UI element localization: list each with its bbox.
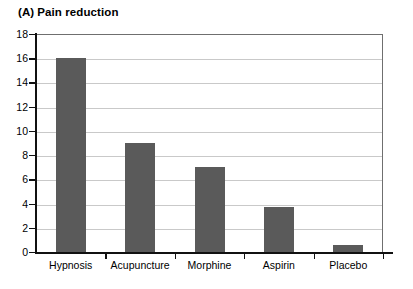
y-axis-tick-label: 10 xyxy=(2,125,28,137)
x-axis-tick-label: Morphine xyxy=(188,259,232,271)
bar-morphine xyxy=(195,167,225,252)
x-axis-tick xyxy=(314,252,315,259)
x-axis-tick-label: Aspirin xyxy=(263,259,295,271)
x-axis-tick-label: Placebo xyxy=(329,259,367,271)
x-axis-tick xyxy=(175,252,176,259)
y-axis-tick-label: 12 xyxy=(2,101,28,113)
x-axis-tick-label: Acupuncture xyxy=(111,259,170,271)
y-axis-tick-label: 8 xyxy=(2,149,28,161)
y-axis-tick xyxy=(29,179,36,180)
pain-reduction-bar-chart: (A)Pain reduction 024681012141618 Hypnos… xyxy=(0,0,413,289)
y-axis-tick xyxy=(29,204,36,205)
y-axis-tick-label: 18 xyxy=(2,28,28,40)
x-axis-line xyxy=(35,252,393,254)
y-axis-tick-label: 0 xyxy=(2,246,28,258)
bars-layer xyxy=(36,34,383,252)
y-axis-tick xyxy=(29,107,36,108)
y-axis-tick-label: 14 xyxy=(2,76,28,88)
y-axis-tick xyxy=(29,228,36,229)
bar-placebo xyxy=(333,245,363,252)
chart-title: (A)Pain reduction xyxy=(18,6,119,18)
y-axis-tick xyxy=(29,131,36,132)
y-axis-tick xyxy=(29,252,36,253)
x-axis-tick xyxy=(383,252,384,259)
chart-title-text: Pain reduction xyxy=(37,6,118,18)
y-axis-tick-label: 16 xyxy=(2,52,28,64)
x-axis-tick-label: Hypnosis xyxy=(49,259,92,271)
bar-hypnosis xyxy=(56,58,86,252)
x-axis-tick xyxy=(244,252,245,259)
y-axis-tick-label: 2 xyxy=(2,222,28,234)
y-axis-labels: 024681012141618 xyxy=(0,0,28,289)
bar-acupuncture xyxy=(125,143,155,252)
x-axis-tick xyxy=(105,252,106,259)
y-axis-tick xyxy=(29,34,36,35)
y-axis-tick-label: 4 xyxy=(2,198,28,210)
y-axis-tick xyxy=(29,58,36,59)
y-axis-tick-label: 6 xyxy=(2,173,28,185)
bar-aspirin xyxy=(264,207,294,252)
y-axis-tick xyxy=(29,82,36,83)
y-axis-tick xyxy=(29,155,36,156)
